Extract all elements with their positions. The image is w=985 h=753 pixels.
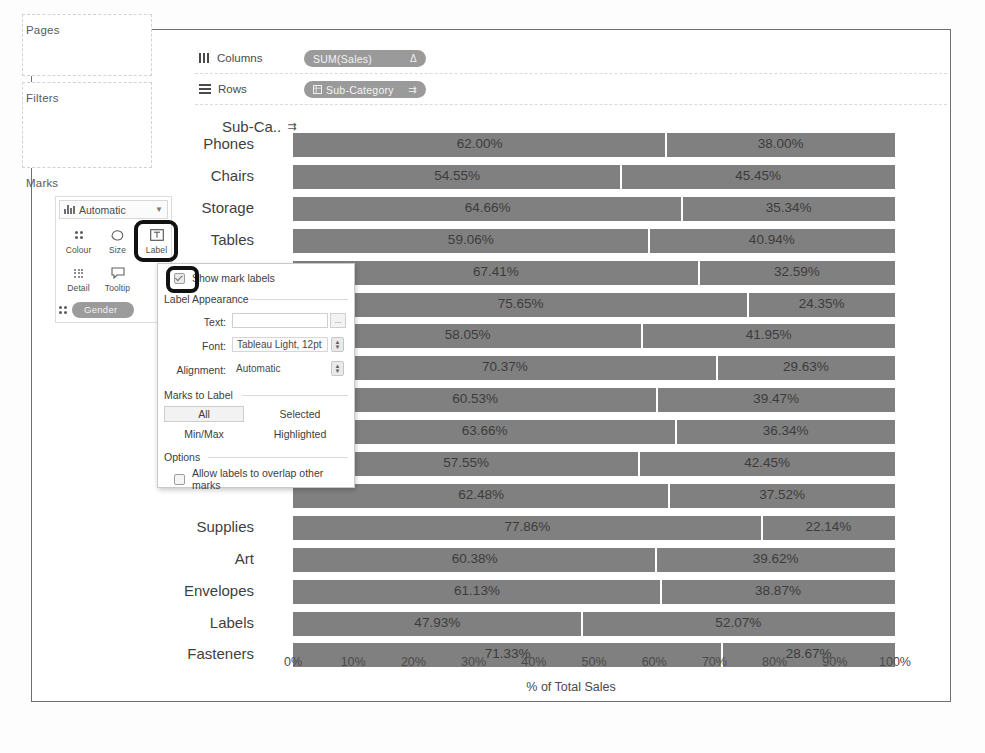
bar-row-category-label: Chairs xyxy=(94,167,254,184)
marks-to-label-rule xyxy=(242,395,348,397)
dimension-grid-icon xyxy=(313,85,322,94)
x-axis-tick-label: 50% xyxy=(581,655,606,669)
font-stepper[interactable]: ▲▼ xyxy=(331,337,344,352)
bar-label-left: 70.37% xyxy=(482,359,528,374)
delta-icon: Δ xyxy=(410,53,417,64)
bar-row[interactable]: Envelopes61.13%38.87% xyxy=(195,580,947,604)
x-axis-title: % of Total Sales xyxy=(195,680,947,694)
text-field-label: Text: xyxy=(162,316,226,328)
marks-to-label-selected[interactable]: Selected xyxy=(260,406,340,422)
marks-to-label-all[interactable]: All xyxy=(164,406,244,422)
x-axis-tick-label: 90% xyxy=(822,655,847,669)
bar-label-left: 58.05% xyxy=(445,327,491,342)
marks-colour-button[interactable]: Colour xyxy=(59,224,98,258)
bar-label-left: 54.55% xyxy=(434,168,480,183)
shelf-divider xyxy=(195,103,947,105)
detail-dots-icon xyxy=(74,266,83,281)
columns-shelf-label-group: Columns xyxy=(199,52,262,64)
bar-label-left: 47.93% xyxy=(414,615,460,630)
x-axis-tick-label: 20% xyxy=(401,655,426,669)
allow-overlap-checkbox[interactable] xyxy=(174,474,185,485)
show-mark-labels-row[interactable]: Show mark labels xyxy=(174,272,275,284)
bar-row-category-label: Labels xyxy=(94,614,254,631)
x-axis-tick-label: 40% xyxy=(521,655,546,669)
label-appearance-title: Label Appearance xyxy=(164,293,254,305)
bar-row[interactable]: Phones62.00%38.00% xyxy=(195,133,947,157)
detail-dots-icon xyxy=(59,306,67,314)
pages-shelf-label: Pages xyxy=(26,24,60,36)
bar-label-left: 62.48% xyxy=(458,487,504,502)
rows-icon xyxy=(199,84,211,94)
x-axis-tick-label: 10% xyxy=(341,655,366,669)
font-field-label: Font: xyxy=(162,340,226,352)
options-rule xyxy=(208,457,348,459)
label-appearance-rule xyxy=(250,299,348,301)
bar-label-left: 60.38% xyxy=(452,551,498,566)
bar-label-right: 24.35% xyxy=(799,296,845,311)
rows-shelf-label-group: Rows xyxy=(199,83,247,95)
marks-detail-label: Detail xyxy=(67,283,89,293)
bar-chart-icon xyxy=(64,205,75,214)
marks-to-label-title: Marks to Label xyxy=(164,389,238,401)
bar-label-right: 42.45% xyxy=(744,455,790,470)
marks-tooltip-label: Tooltip xyxy=(105,283,130,293)
bar-label-left: 61.13% xyxy=(454,583,500,598)
screenshot-canvas: Pages Filters Marks Automatic ▼ Colour S… xyxy=(0,0,985,753)
columns-shelf-label: Columns xyxy=(217,52,262,64)
font-field-value[interactable]: Tableau Light, 12pt xyxy=(232,337,328,352)
bar-label-left: 64.66% xyxy=(465,200,511,215)
bar-label-right: 40.94% xyxy=(749,232,795,247)
alignment-stepper[interactable]: ▲▼ xyxy=(331,361,344,376)
bar-label-right: 36.34% xyxy=(763,423,809,438)
marks-card-pill-row: Gender xyxy=(59,302,134,318)
alignment-field-value[interactable]: Automatic xyxy=(232,361,328,376)
rows-pill-sub-category[interactable]: Sub-Category ⇉ xyxy=(304,81,426,98)
columns-icon xyxy=(199,53,210,63)
marks-tooltip-button[interactable]: Tooltip xyxy=(98,262,137,296)
bar-row[interactable]: Tables59.06%40.94% xyxy=(195,229,947,253)
x-axis-tick-label: 80% xyxy=(762,655,787,669)
colour-dots-icon xyxy=(75,228,83,243)
bar-label-left: 57.55% xyxy=(443,455,489,470)
bar-label-right: 38.00% xyxy=(758,136,804,151)
bar-label-left: 77.86% xyxy=(504,519,550,534)
filters-shelf-label: Filters xyxy=(26,92,59,104)
marks-detail-button[interactable]: Detail xyxy=(59,262,98,296)
bar-label-right: 45.45% xyxy=(735,168,781,183)
shelf-divider xyxy=(195,72,947,74)
gender-pill[interactable]: Gender xyxy=(72,302,134,318)
bar-label-right: 41.95% xyxy=(746,327,792,342)
show-mark-labels-checkbox[interactable] xyxy=(174,273,185,284)
alignment-field-label: Alignment: xyxy=(154,364,226,376)
x-axis-tick-label: 60% xyxy=(642,655,667,669)
bar-label-right: 38.87% xyxy=(755,583,801,598)
show-mark-labels-label: Show mark labels xyxy=(192,272,275,284)
bar-label-left: 67.41% xyxy=(473,264,519,279)
columns-pill-sum-sales[interactable]: SUM(Sales) Δ xyxy=(304,50,426,67)
bar-label-right: 29.63% xyxy=(783,359,829,374)
rows-pill-text: Sub-Category xyxy=(313,84,394,96)
bar-row[interactable]: Labels47.93%52.07% xyxy=(195,612,947,636)
bar-row[interactable]: Storage64.66%35.34% xyxy=(195,197,947,221)
marks-colour-label: Colour xyxy=(66,245,92,255)
bar-label-left: 75.65% xyxy=(498,296,544,311)
bar-row-category-label: Supplies xyxy=(94,518,254,535)
allow-overlap-row[interactable]: Allow labels to overlap other marks xyxy=(174,467,354,491)
bar-row[interactable]: Chairs54.55%45.45% xyxy=(195,165,947,189)
marks-to-label-minmax[interactable]: Min/Max xyxy=(164,426,244,442)
bar-label-right: 52.07% xyxy=(715,615,761,630)
bar-label-right: 35.34% xyxy=(766,200,812,215)
bar-row-category-label: Tables xyxy=(94,231,254,248)
bar-row[interactable]: Supplies77.86%22.14% xyxy=(195,516,947,540)
bar-label-right: 32.59% xyxy=(774,264,820,279)
bar-label-left: 60.53% xyxy=(452,391,498,406)
bar-label-left: 62.00% xyxy=(457,136,503,151)
bar-label-right: 37.52% xyxy=(759,487,805,502)
bar-row[interactable]: Art60.38%39.62% xyxy=(195,548,947,572)
text-field-input[interactable] xyxy=(232,313,328,328)
marks-to-label-highlighted[interactable]: Highlighted xyxy=(260,426,340,442)
text-field-ellipsis-button[interactable]: ... xyxy=(330,313,346,328)
x-axis-tick-label: 70% xyxy=(702,655,727,669)
x-axis-tick-label: 100% xyxy=(879,655,911,669)
x-axis-tick-label: 30% xyxy=(461,655,486,669)
